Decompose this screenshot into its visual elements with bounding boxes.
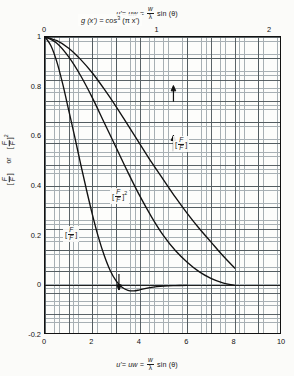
annotation-exponent: 3 xyxy=(117,15,120,21)
annotation-lhs: g (x') = cos xyxy=(81,16,117,25)
y-axis-title-connector: or xyxy=(5,154,14,168)
y-axis-title-second-term: [FF]2 xyxy=(2,135,16,149)
bottom-tick-label: 2 xyxy=(89,337,93,346)
plot-area: [FF] [FF]2 [FF] xyxy=(44,36,281,334)
top-axis-title-denominator: λ xyxy=(147,14,154,21)
top-axis-title-fraction: w λ xyxy=(147,6,154,20)
y-tick-label: 0.2 xyxy=(31,230,41,239)
bottom-axis-title-fraction: w λ xyxy=(147,357,154,371)
y-tick-label: 1 xyxy=(37,32,41,41)
bottom-axis-title: u'= uw = w λ sin (θ) xyxy=(0,357,294,371)
annotation-rhs: (π x') xyxy=(122,16,139,25)
bottom-axis-title-rhs: sin (θ) xyxy=(157,360,178,369)
arrow-up-upper-curve-head xyxy=(171,86,176,91)
top-tick-label: 1 xyxy=(155,25,159,34)
bottom-tick-label: 4 xyxy=(137,337,141,346)
bottom-tick-label: 0 xyxy=(42,337,46,346)
y-tick-label: 0.8 xyxy=(31,81,41,90)
y-axis-title: [FF]2 or [FF] xyxy=(2,128,16,194)
bottom-tick-label: 8 xyxy=(232,337,236,346)
bottom-tick-label: 10 xyxy=(277,337,285,346)
arrow-down-steep-curve-head xyxy=(117,285,122,290)
curve-label-upper: [FF] xyxy=(173,136,189,152)
curve-label-lower: [FF] xyxy=(63,226,79,242)
y-tick-label: 0.6 xyxy=(31,131,41,140)
y-axis-title-first-term: [FF] xyxy=(2,173,16,187)
y-tick-label: -0.2 xyxy=(28,330,41,339)
top-axis-title-rhs: sin (θ) xyxy=(157,9,178,18)
function-annotation: g (x') = cos3 (π x') xyxy=(78,14,142,26)
curve-layer xyxy=(45,37,281,334)
bottom-axis-title-denominator: λ xyxy=(147,365,154,372)
top-tick-label: 0 xyxy=(42,25,46,34)
curve-0 xyxy=(45,37,187,291)
top-tick-label: 2 xyxy=(267,25,271,34)
curve-label-middle: [FF]2 xyxy=(110,188,129,204)
bottom-axis-title-lhs: u'= uw = xyxy=(116,360,144,369)
bottom-tick-label: 6 xyxy=(184,337,188,346)
y-tick-label: 0 xyxy=(37,280,41,289)
top-axis-title: u'= uw = w λ sin (θ) xyxy=(0,6,294,20)
curve-1 xyxy=(45,37,235,285)
y-tick-label: 0.4 xyxy=(31,181,41,190)
